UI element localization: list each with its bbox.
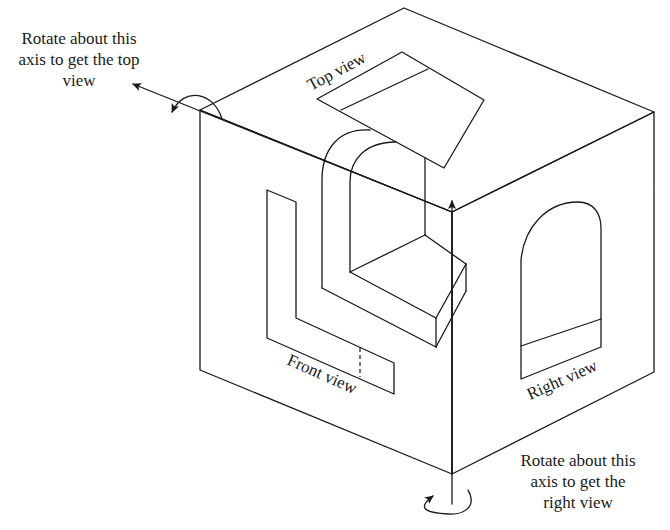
- top-rotation-axis: [133, 84, 452, 212]
- cube-right-face: [452, 112, 654, 474]
- cube-front-face: [200, 110, 452, 474]
- glass-box-cube: [200, 8, 654, 474]
- right-axis-caption: Rotate about this axis to get the right …: [503, 450, 653, 513]
- top-axis-caption: Rotate about this axis to get the top vi…: [4, 28, 154, 91]
- right-rotation-axis: [424, 201, 471, 514]
- right-view-projection: [521, 202, 601, 379]
- isometric-object: [322, 130, 466, 347]
- cube-top-face: [200, 8, 654, 212]
- rotation-arrow-icon: [424, 490, 471, 514]
